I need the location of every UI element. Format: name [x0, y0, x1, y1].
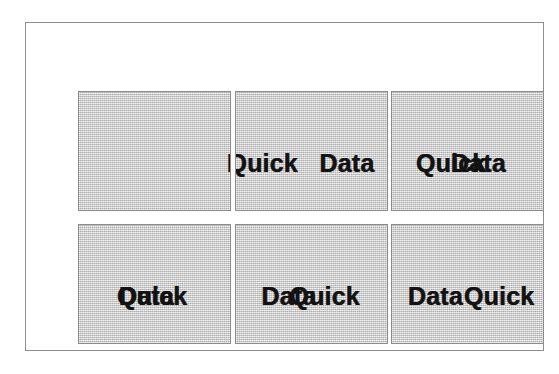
panel-4-word-2: Data [119, 284, 174, 309]
scanned-page: Quick Data Quick Data Quick Da [0, 0, 559, 374]
panel-3-word-2: Data [451, 151, 506, 176]
panel-6-word-1: Data [408, 284, 463, 309]
panel-4-text-layer: Quick Data [79, 225, 230, 343]
panel-3: Quick Data [391, 91, 544, 211]
panel-2-word-1: Quick [235, 151, 298, 176]
panel-6-word-2: Quick [464, 284, 534, 309]
panel-1-text-layer: Quick Data [79, 92, 230, 210]
panel-5-word-2: Quick [290, 284, 360, 309]
figure-frame: Quick Data Quick Data Quick Da [25, 22, 544, 351]
panel-1-word-2: Data [227, 151, 231, 176]
panel-3-text-layer: Quick Data [392, 92, 543, 210]
panel-2-word-2: Data [320, 151, 375, 176]
panel-5: Data Quick [235, 224, 388, 344]
panel-6: Data Quick [391, 224, 544, 344]
panel-4: Quick Data [78, 224, 231, 344]
panel-6-text-layer: Data Quick [392, 225, 543, 343]
panel-1: Quick Data [78, 91, 231, 211]
panel-grid: Quick Data Quick Data Quick Da [78, 91, 544, 345]
panel-2-text-layer: Quick Data [236, 92, 387, 210]
panel-5-text-layer: Data Quick [236, 225, 387, 343]
panel-2: Quick Data [235, 91, 388, 211]
